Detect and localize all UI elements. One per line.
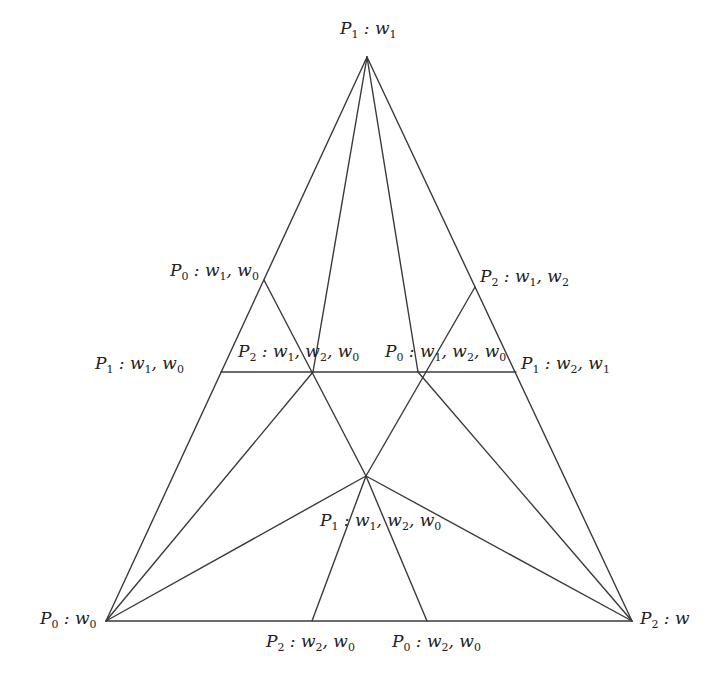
vertex-label-top: P1 : w1 (340, 20, 397, 40)
edge-right_mid-center (366, 287, 475, 476)
vertex-label-b_left: P2 : w2, w0 (266, 633, 355, 653)
edge-top-x_right (367, 57, 418, 372)
vertex-label-br: P2 : w (640, 610, 690, 630)
vertex-label-x_left: P2 : w1, w2, w0 (238, 343, 359, 363)
edge-br-x_right (418, 372, 632, 621)
edge-center-b_left (312, 476, 366, 621)
vertex-label-x_right: P0 : w1, w2, w0 (385, 343, 506, 363)
triangle-diagram (0, 0, 725, 685)
vertex-label-left_mid: P0 : w1, w0 (170, 262, 259, 282)
edge-top-x_left (313, 57, 367, 372)
edge-left_mid-center (264, 280, 366, 476)
vertex-label-b_right: P0 : w2, w0 (392, 633, 481, 653)
vertex-label-right_mid: P2 : w1, w2 (480, 268, 569, 288)
edge-top-bl (106, 57, 367, 621)
edge-center-b_right (366, 476, 427, 621)
edge-bl-x_left (106, 372, 313, 621)
vertex-label-h_left: P1 : w1, w0 (95, 355, 184, 375)
vertex-label-bl: P0 : w0 (40, 610, 97, 630)
diagram-edges (106, 57, 632, 621)
edge-top-br (367, 57, 632, 621)
edge-br-center (366, 476, 632, 621)
vertex-label-h_right: P1 : w2, w1 (521, 355, 610, 375)
edge-bl-center (106, 476, 366, 621)
vertex-label-center: P1 : w1, w2, w0 (320, 512, 441, 532)
